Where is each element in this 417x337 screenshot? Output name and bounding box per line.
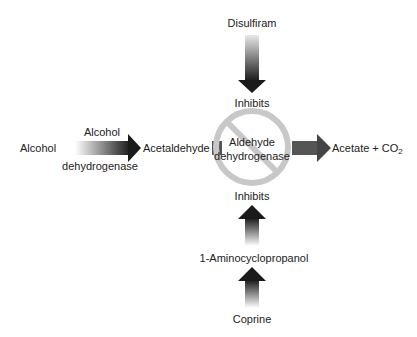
arrow-to-acetate bbox=[292, 134, 331, 162]
node-aminocyclopropanol: 1-Aminocyclopropanol bbox=[200, 252, 309, 265]
label-inhibits-bottom: Inhibits bbox=[235, 190, 270, 203]
arrow-coprine-up bbox=[238, 267, 266, 308]
node-coprine: Coprine bbox=[233, 313, 272, 326]
node-acetate-co2: Acetate + CO2 bbox=[332, 142, 403, 158]
product-subscript: 2 bbox=[398, 147, 402, 156]
enzyme-alcohol-dehydrogenase-line2: dehydrogenase bbox=[62, 160, 138, 173]
enzyme-aldehyde-dehydrogenase-line2: dehydrogenase bbox=[214, 150, 290, 163]
arrow-disulfiram-down bbox=[238, 35, 266, 93]
enzyme-alcohol-dehydrogenase-line1: Alcohol bbox=[84, 126, 120, 139]
product-text: Acetate + CO bbox=[332, 142, 398, 154]
node-alcohol: Alcohol bbox=[20, 142, 56, 155]
label-inhibits-top: Inhibits bbox=[235, 97, 270, 110]
node-acetaldehyde: Acetaldehyde bbox=[143, 142, 210, 155]
node-disulfiram: Disulfiram bbox=[228, 17, 277, 30]
enzyme-aldehyde-dehydrogenase-line1: Aldehyde bbox=[229, 136, 275, 149]
arrow-aminocyclopropanol-up bbox=[238, 205, 266, 246]
